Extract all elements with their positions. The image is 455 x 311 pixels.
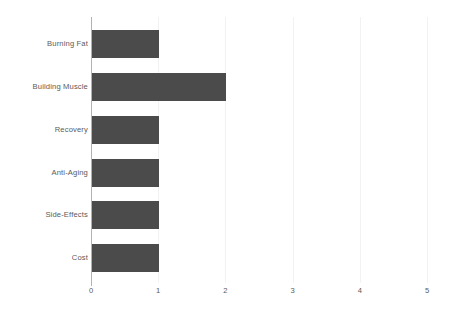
category-label-recovery: Recovery — [55, 116, 88, 144]
bar-anti-aging — [92, 159, 159, 187]
category-label-building-muscle: Building Muscle — [33, 73, 88, 101]
bar-row: Recovery — [0, 116, 455, 144]
x-tick-label: 5 — [415, 286, 439, 295]
bar-chart: Burning Fat Building Muscle Recovery Ant… — [0, 0, 455, 311]
bars-layer: Burning Fat Building Muscle Recovery Ant… — [0, 0, 455, 311]
bar-row: Burning Fat — [0, 30, 455, 58]
bar-cost — [92, 244, 159, 272]
bar-building-muscle — [92, 73, 226, 101]
x-tick-label: 3 — [281, 286, 305, 295]
category-label-cost: Cost — [72, 244, 88, 272]
bar-side-effects — [92, 201, 159, 229]
bar-burning-fat — [92, 30, 159, 58]
bar-row: Cost — [0, 244, 455, 272]
x-tick-label: 0 — [79, 286, 103, 295]
bar-row: Side-Effects — [0, 201, 455, 229]
x-tick-label: 1 — [146, 286, 170, 295]
x-tick-label: 4 — [348, 286, 372, 295]
category-label-burning-fat: Burning Fat — [47, 30, 88, 58]
bar-row: Anti-Aging — [0, 159, 455, 187]
x-axis-tick-labels: 0 1 2 3 4 5 — [0, 286, 455, 304]
bar-recovery — [92, 116, 159, 144]
category-label-anti-aging: Anti-Aging — [51, 159, 88, 187]
category-label-side-effects: Side-Effects — [45, 201, 88, 229]
x-tick-label: 2 — [213, 286, 237, 295]
bar-row: Building Muscle — [0, 73, 455, 101]
